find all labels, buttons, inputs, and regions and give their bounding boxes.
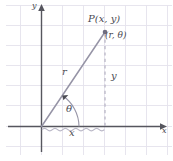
horizontal-leg-label: x bbox=[69, 128, 75, 138]
polar-pair-label: (r, θ) bbox=[105, 31, 126, 40]
angle-theta-label: θ bbox=[66, 104, 72, 114]
y-axis-label: y bbox=[32, 2, 37, 10]
polar-coordinates-figure: P(x, y) (r, θ) r y θ x y x bbox=[0, 0, 173, 161]
point-p-label: P(x, y) bbox=[88, 14, 120, 24]
figure-background bbox=[0, 0, 173, 161]
vertical-leg-label: y bbox=[111, 71, 117, 81]
radius-label: r bbox=[62, 67, 67, 77]
x-axis-label: x bbox=[162, 127, 167, 135]
figure-canvas bbox=[0, 0, 173, 161]
